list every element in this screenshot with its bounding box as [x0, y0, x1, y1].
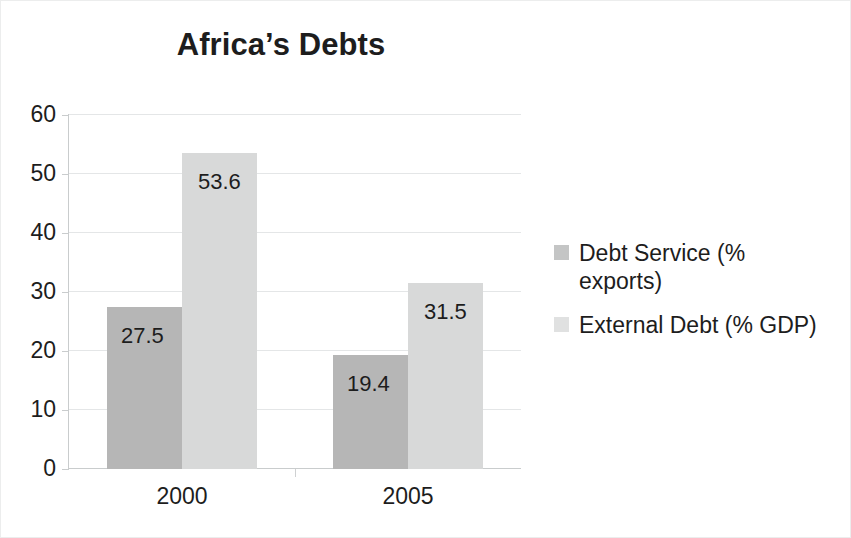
- y-tick-label-20: 20: [6, 339, 56, 362]
- y-tick-label-30: 30: [6, 280, 56, 303]
- y-tick-label-60: 60: [6, 103, 56, 126]
- data-label-2000-series-0: 27.5: [121, 325, 164, 347]
- y-tick-label-0: 0: [6, 457, 56, 480]
- x-tick-label-2000: 2000: [122, 485, 242, 508]
- chart-legend: Debt Service (%exports)External Debt (% …: [554, 239, 846, 355]
- gridline-60: [69, 114, 521, 115]
- gridline-50: [69, 173, 521, 174]
- x-tick-label-2005: 2005: [348, 485, 468, 508]
- chart-canvas: Africa’s Debts 27.553.619.431.5 60504030…: [0, 0, 851, 538]
- y-tick-mark-0: [62, 469, 69, 470]
- data-label-2005-series-0: 19.4: [347, 373, 390, 395]
- y-tick-label-50: 50: [6, 162, 56, 185]
- bar-2000-series-1[interactable]: [182, 153, 257, 469]
- data-label-2000-series-1: 53.6: [198, 171, 241, 193]
- legend-item-series-1[interactable]: External Debt (% GDP): [554, 311, 846, 339]
- plot-area: 27.553.619.431.5: [69, 115, 521, 469]
- legend-swatch-icon-series-0: [554, 245, 569, 260]
- gridline-40: [69, 232, 521, 233]
- y-tick-mark-40: [62, 233, 69, 234]
- legend-item-series-0[interactable]: Debt Service (%exports): [554, 239, 846, 295]
- legend-swatch-icon-series-1: [554, 317, 569, 332]
- y-tick-mark-50: [62, 174, 69, 175]
- data-label-2005-series-1: 31.5: [424, 301, 467, 323]
- y-tick-mark-20: [62, 351, 69, 352]
- x-tick-mark-1: [295, 469, 296, 477]
- y-tick-mark-30: [62, 292, 69, 293]
- chart-title: Africa’s Debts: [1, 27, 561, 63]
- y-tick-mark-60: [62, 115, 69, 116]
- y-tick-label-10: 10: [6, 398, 56, 421]
- y-axis-tick-labels: 6050403020100: [1, 1, 56, 538]
- y-tick-label-40: 40: [6, 221, 56, 244]
- y-tick-mark-10: [62, 410, 69, 411]
- legend-label-series-1: External Debt (% GDP): [579, 311, 817, 339]
- legend-label-series-0: Debt Service (%exports): [579, 239, 745, 295]
